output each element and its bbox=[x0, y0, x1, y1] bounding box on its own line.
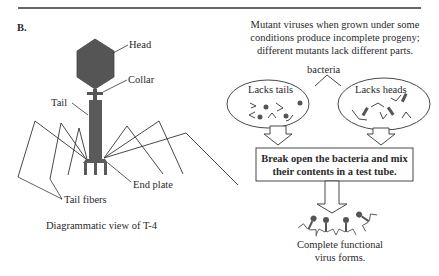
oval-right-label: Lacks heads bbox=[355, 84, 407, 96]
box-line: their contents in a test tube. bbox=[256, 165, 413, 178]
bacteria-connector bbox=[315, 75, 341, 86]
label-collar: Collar bbox=[128, 74, 154, 86]
tail-fragments-icon bbox=[352, 93, 411, 120]
oval-left-label: Lacks tails bbox=[248, 84, 293, 96]
arrow-center-down bbox=[317, 181, 347, 213]
label-tail: Tail bbox=[51, 97, 67, 109]
arrow-left-down bbox=[264, 126, 292, 145]
intro-line: Mutant viruses when grown under some bbox=[240, 18, 430, 31]
figure-caption: Diagrammatic view of T-4 bbox=[46, 220, 157, 232]
label-end-plate: End plate bbox=[133, 179, 173, 191]
phage-tail bbox=[89, 100, 102, 160]
phage-tail-fibers bbox=[18, 121, 238, 185]
result-line: virus forms. bbox=[280, 251, 400, 264]
leader-tail bbox=[72, 103, 88, 115]
intro-line: different mutants lack different parts. bbox=[240, 44, 430, 57]
t4-phage-diagram bbox=[18, 39, 238, 199]
result-line: Complete functional bbox=[280, 238, 400, 251]
intro-line: conditions produce incomplete progeny; bbox=[240, 31, 430, 44]
leader-end-plate bbox=[108, 163, 131, 182]
label-tail-fibers: Tail fibers bbox=[64, 194, 107, 206]
phage-head bbox=[77, 39, 114, 89]
box-line: Break open the bacteria and mix bbox=[256, 152, 413, 165]
head-fragments-icon bbox=[249, 101, 303, 122]
label-head: Head bbox=[129, 39, 151, 51]
intro-paragraph: Mutant viruses when grown under some con… bbox=[240, 18, 430, 57]
bacteria-label: bacteria bbox=[307, 64, 340, 76]
leader-head bbox=[113, 45, 128, 53]
process-box-text: Break open the bacteria and mix their co… bbox=[256, 152, 413, 178]
panel-label: B. bbox=[17, 22, 27, 34]
arrow-right-down bbox=[367, 128, 395, 145]
result-text: Complete functional virus forms. bbox=[280, 238, 400, 264]
phage-end-plate bbox=[83, 159, 108, 175]
